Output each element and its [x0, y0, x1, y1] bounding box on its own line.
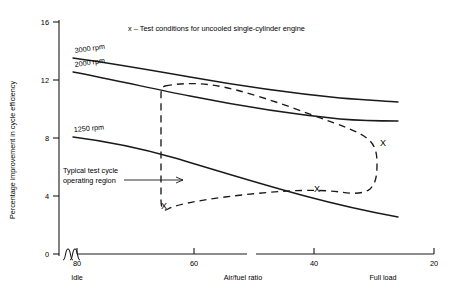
- x-ticklabel-60: 60: [190, 259, 198, 268]
- x-ticklabel-20: 20: [430, 259, 438, 268]
- y-ticklabel-0: 0: [45, 250, 49, 259]
- annotation-line-1: Typical test cycle: [63, 166, 118, 175]
- x-axis-label-idle: Idle: [71, 273, 83, 282]
- operating-region-outline: [161, 84, 377, 210]
- curve-3000-rpm: [73, 58, 398, 102]
- annotation-arrow: [124, 177, 183, 183]
- chart-title: x – Test conditions for uncooled single-…: [128, 24, 305, 33]
- y-ticklabel-4: 4: [45, 192, 49, 201]
- y-axis-tick-labels: 16 12 8 4 0: [41, 18, 49, 259]
- x-axis-tick-labels: 80 60 40 20: [73, 259, 438, 268]
- curve-1250-rpm: [73, 137, 398, 217]
- test-condition-marker-3: X: [161, 201, 167, 211]
- y-ticklabel-12: 12: [41, 76, 49, 85]
- x-axis-label-full-load: Full load: [369, 273, 396, 282]
- y-axis-ticks: [53, 22, 59, 254]
- curve-2000-rpm: [73, 72, 398, 121]
- test-condition-marker-1: X: [380, 138, 386, 148]
- chart-container: x – Test conditions for uncooled single-…: [0, 0, 457, 296]
- test-condition-marker-2: X: [314, 184, 320, 194]
- series-label-2000-rpm: 2000 rpm: [74, 56, 105, 69]
- series-label-1250-rpm: 1250 rpm: [73, 122, 104, 134]
- y-ticklabel-8: 8: [45, 134, 49, 143]
- x-axis-ticks: [77, 248, 434, 254]
- x-ticklabel-40: 40: [310, 259, 318, 268]
- annotation-line-2: operating region: [63, 176, 116, 185]
- y-ticklabel-16: 16: [41, 18, 49, 27]
- cycle-efficiency-chart: x – Test conditions for uncooled single-…: [0, 0, 457, 296]
- x-axis-title: Air/fuel ratio: [224, 273, 262, 282]
- x-axis-sublabels: Idle Air/fuel ratio Full load: [71, 273, 396, 282]
- y-axis-title: Percentage improvement in cycle efficien…: [8, 81, 17, 219]
- x-ticklabel-80: 80: [73, 259, 81, 268]
- series-label-3000-rpm: 3000 rpm: [74, 42, 105, 55]
